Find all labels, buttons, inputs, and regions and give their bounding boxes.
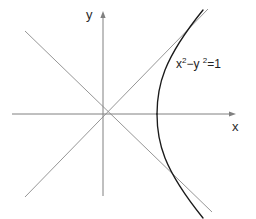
x-axis-arrowhead bbox=[229, 111, 236, 116]
asymptote-positive-line bbox=[25, 9, 208, 197]
hyperbola-figure: y x x2−y 2=1 bbox=[0, 0, 256, 219]
equation-base-2: y bbox=[193, 57, 202, 71]
x-axis-label: x bbox=[232, 120, 239, 133]
y-axis-arrowhead bbox=[100, 11, 105, 18]
y-axis-label: y bbox=[86, 8, 93, 21]
equation-equals: =1 bbox=[207, 57, 221, 71]
curve-equation-label: x2−y 2=1 bbox=[176, 58, 221, 70]
plot-canvas bbox=[0, 0, 256, 219]
